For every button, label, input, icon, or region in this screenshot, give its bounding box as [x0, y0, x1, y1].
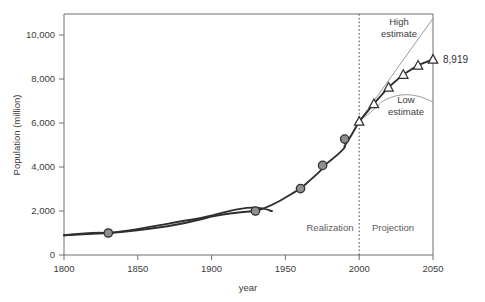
- y-tick-label-10000: 10,000: [26, 29, 55, 40]
- y-tick-label-6000: 6,000: [31, 117, 55, 128]
- y-tick-label-4000: 4,000: [31, 161, 55, 172]
- x-axis-tick-labels: 1800 1850 1900 1950 2000 2050: [53, 263, 443, 274]
- data-point-circle: [341, 135, 349, 143]
- y-axis-tick-labels: 0 2,000 4,000 6,000 8,000 10,000: [26, 29, 55, 260]
- high-estimate-label-line1: High: [389, 16, 409, 27]
- region-label-projection: Projection: [372, 222, 414, 233]
- data-point-circle: [104, 229, 112, 237]
- x-tick-label-1800: 1800: [53, 263, 74, 274]
- data-point-circle: [296, 184, 304, 192]
- x-axis-ticks: [64, 255, 433, 260]
- y-axis-ticks: [59, 35, 64, 255]
- y-tick-label-0: 0: [50, 249, 55, 260]
- x-tick-label-1950: 1950: [275, 263, 296, 274]
- x-tick-label-1850: 1850: [127, 263, 148, 274]
- high-estimate-label-line2: estimate: [381, 28, 417, 39]
- plot-frame: [64, 14, 433, 255]
- y-tick-label-2000: 2,000: [31, 205, 55, 216]
- x-axis-title: year: [239, 282, 257, 293]
- y-tick-label-8000: 8,000: [31, 73, 55, 84]
- series-realization-curve: [64, 121, 359, 235]
- annotation-low-estimate: Low estimate: [388, 94, 424, 117]
- annotation-high-estimate: High estimate: [381, 16, 417, 39]
- y-axis-title: Population (million): [11, 95, 22, 176]
- region-label-realization: Realization: [307, 222, 354, 233]
- data-point-circle: [251, 207, 259, 215]
- population-chart: 0 2,000 4,000 6,000 8,000 10,000 1800 18…: [0, 0, 485, 302]
- endpoint-value-label: 8,919: [443, 54, 468, 65]
- x-tick-label-2050: 2050: [422, 263, 443, 274]
- data-point-triangle: [428, 55, 437, 64]
- x-tick-label-2000: 2000: [349, 263, 370, 274]
- data-point-circle: [318, 161, 326, 169]
- x-tick-label-1900: 1900: [201, 263, 222, 274]
- low-estimate-label-line2: estimate: [388, 106, 424, 117]
- data-point-triangle: [399, 70, 408, 79]
- low-estimate-label-line1: Low: [397, 94, 415, 105]
